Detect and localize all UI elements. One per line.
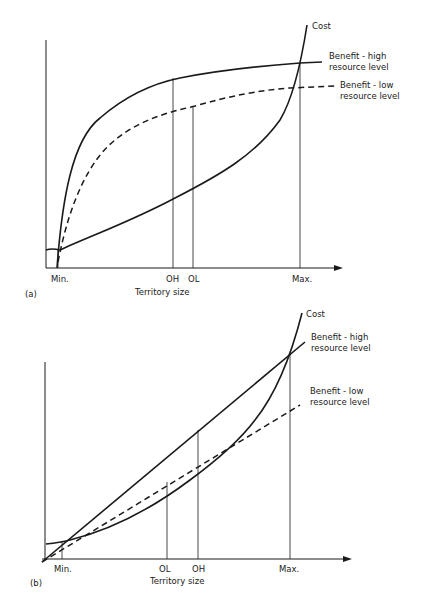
tick-max-a: Max. <box>292 274 312 284</box>
tick-max-b: Max. <box>279 564 299 574</box>
panel-label-b: (b) <box>30 578 42 588</box>
x-axis-arrow-a <box>334 265 343 271</box>
x-axis-arrow-b <box>343 556 352 562</box>
tick-ol-a: OL <box>188 274 200 284</box>
benefit-high-label-1-a: Benefit - high <box>329 51 386 61</box>
cost-curve-a <box>46 25 307 250</box>
benefit-low-label-2-a: resource level <box>340 91 400 101</box>
benefit-low-curve-b <box>42 405 300 562</box>
benefit-high-curve-b <box>42 342 305 562</box>
cost-label-b: Cost <box>306 309 326 319</box>
benefit-low-label-1-a: Benefit - low <box>340 80 393 90</box>
tick-oh-a: OH <box>166 274 179 284</box>
tick-min-a: Min. <box>51 274 69 284</box>
tick-min-b: Min. <box>54 564 72 574</box>
xlabel-b: Territory size <box>149 576 204 586</box>
panel-label-a: (a) <box>25 289 37 299</box>
benefit-high-label-1-b: Benefit - high <box>311 332 368 342</box>
xlabel-a: Territory size <box>134 287 189 297</box>
benefit-high-label-2-a: resource level <box>329 62 389 72</box>
tick-oh-b: OH <box>192 564 205 574</box>
cost-curve-b <box>46 313 302 544</box>
panel-a: Cost Benefit - high resource level Benef… <box>25 21 400 299</box>
benefit-low-curve-a <box>58 86 335 262</box>
tick-ol-b: OL <box>159 564 171 574</box>
benefit-low-label-2-b: resource level <box>310 397 370 407</box>
cost-label-a: Cost <box>312 21 332 31</box>
benefit-low-label-1-b: Benefit - low <box>310 386 363 396</box>
panel-b: Cost Benefit - high resource level Benef… <box>30 309 371 588</box>
benefit-high-curve-a <box>57 62 322 268</box>
figure: Cost Benefit - high resource level Benef… <box>0 0 422 606</box>
benefit-high-label-2-b: resource level <box>311 343 371 353</box>
